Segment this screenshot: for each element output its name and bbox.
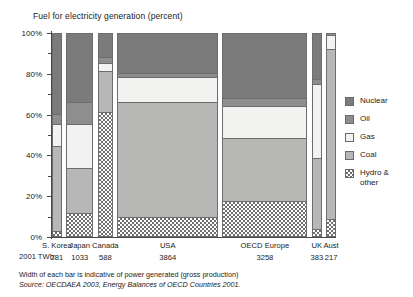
category-label-3: USA bbox=[160, 241, 176, 250]
legend-item-gas[interactable]: Gas bbox=[345, 132, 389, 142]
segment-oil bbox=[53, 115, 61, 125]
segment-hydro-other bbox=[53, 232, 61, 236]
coal-swatch bbox=[345, 151, 354, 160]
segment-nuclear bbox=[313, 34, 321, 80]
segment-coal bbox=[118, 103, 217, 218]
segment-gas bbox=[99, 64, 112, 72]
bar-oecd-europe[interactable] bbox=[222, 33, 307, 237]
y-tick-30 bbox=[48, 176, 51, 177]
category-label-1: Japan bbox=[69, 241, 90, 250]
page-title: Fuel for electricity generation (percent… bbox=[33, 11, 183, 21]
twh-value-0: 281 bbox=[51, 253, 64, 262]
y-tick-90 bbox=[48, 53, 51, 54]
legend-label-3: Coal bbox=[360, 150, 376, 160]
legend-item-oil[interactable]: Oil bbox=[345, 114, 389, 124]
segment-coal bbox=[327, 50, 335, 220]
y-tick-label-80: 80% bbox=[26, 69, 42, 78]
twh-value-4: 3258 bbox=[256, 253, 273, 262]
segment-hydro-other bbox=[223, 202, 306, 236]
bar-canada[interactable] bbox=[98, 33, 113, 237]
twh-value-6: 217 bbox=[325, 253, 338, 262]
segment-nuclear bbox=[53, 34, 61, 115]
y-tick-20 bbox=[47, 196, 51, 197]
segment-hydro-other bbox=[118, 218, 217, 236]
bar-aust[interactable] bbox=[326, 33, 336, 237]
segment-gas bbox=[53, 125, 61, 147]
y-tick-80 bbox=[47, 74, 51, 75]
segment-oil bbox=[223, 99, 306, 107]
segment-coal bbox=[313, 159, 321, 230]
segment-coal bbox=[99, 72, 112, 112]
bar-usa[interactable] bbox=[117, 33, 218, 237]
segment-gas bbox=[223, 107, 306, 139]
segment-hydro-other bbox=[99, 113, 112, 236]
legend-label-2: Gas bbox=[360, 132, 375, 142]
y-tick-label-40: 40% bbox=[26, 151, 42, 160]
bar-s-korea[interactable] bbox=[52, 33, 62, 237]
y-tick-label-100: 100% bbox=[22, 29, 42, 38]
legend-label-1: Oil bbox=[360, 114, 370, 124]
twh-value-1: 1033 bbox=[71, 253, 88, 262]
y-tick-label-0: 0% bbox=[30, 233, 42, 242]
twh-value-2: 588 bbox=[99, 253, 112, 262]
bar-uk[interactable] bbox=[312, 33, 322, 237]
category-label-2: Canada bbox=[92, 241, 119, 250]
category-label-5: UK bbox=[311, 241, 322, 250]
legend-item-coal[interactable]: Coal bbox=[345, 150, 389, 160]
segment-coal bbox=[53, 147, 61, 232]
segment-hydro-other bbox=[327, 220, 335, 236]
segment-coal bbox=[67, 169, 92, 213]
category-label-0: S. Korea bbox=[42, 241, 72, 250]
category-label-6: Aust bbox=[324, 241, 339, 250]
y-tick-40 bbox=[47, 155, 51, 156]
y-tick-70 bbox=[48, 94, 51, 95]
footnote-width: Width of each bar is indicative of power… bbox=[19, 270, 238, 279]
segment-nuclear bbox=[67, 34, 92, 103]
segment-oil bbox=[67, 103, 92, 125]
gas-swatch bbox=[345, 133, 354, 142]
segment-gas bbox=[313, 85, 321, 160]
y-tick-50 bbox=[48, 135, 51, 136]
segment-nuclear bbox=[118, 34, 217, 74]
hydro-swatch bbox=[345, 169, 354, 178]
chart-legend: NuclearOilGasCoalHydro & other bbox=[345, 96, 389, 196]
legend-item-hydro[interactable]: Hydro & other bbox=[345, 168, 389, 187]
twh-value-3: 3864 bbox=[159, 253, 176, 262]
y-tick-100 bbox=[47, 33, 51, 34]
segment-nuclear bbox=[99, 34, 112, 58]
segment-hydro-other bbox=[67, 214, 92, 236]
segment-gas bbox=[327, 36, 335, 50]
y-tick-10 bbox=[48, 217, 51, 218]
plot-area bbox=[52, 33, 336, 237]
category-label-4: OECD Europe bbox=[241, 241, 290, 250]
nuclear-swatch bbox=[345, 97, 354, 106]
y-tick-0 bbox=[47, 237, 51, 238]
y-tick-label-20: 20% bbox=[26, 192, 42, 201]
x-axis-line bbox=[51, 237, 336, 238]
legend-item-nuclear[interactable]: Nuclear bbox=[345, 96, 389, 106]
chart-page: Fuel for electricity generation (percent… bbox=[0, 0, 413, 297]
segment-coal bbox=[223, 139, 306, 202]
footnote-source: Source: OECDAEA 2003, Energy Balances of… bbox=[19, 280, 240, 289]
legend-label-4: Hydro & other bbox=[360, 168, 389, 187]
segment-nuclear bbox=[223, 34, 306, 99]
twh-value-5: 383 bbox=[310, 253, 323, 262]
y-tick-label-60: 60% bbox=[26, 110, 42, 119]
segment-hydro-other bbox=[313, 230, 321, 236]
segment-gas bbox=[67, 125, 92, 169]
legend-label-0: Nuclear bbox=[360, 96, 388, 106]
segment-gas bbox=[118, 78, 217, 102]
oil-swatch bbox=[345, 115, 354, 124]
bar-japan[interactable] bbox=[66, 33, 93, 237]
y-tick-60 bbox=[47, 115, 51, 116]
